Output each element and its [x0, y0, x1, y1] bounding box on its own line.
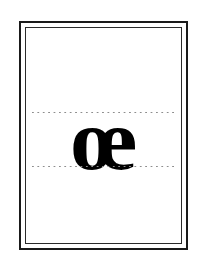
ruling-area: œ [26, 28, 181, 243]
card-canvas: œ [0, 0, 204, 265]
oe-ligature-glyph: œ [71, 108, 136, 172]
baseline-guide [32, 166, 175, 167]
card-outer-border: œ [19, 21, 188, 250]
card-inner-border: œ [25, 27, 182, 244]
glyph-slot: œ [26, 112, 181, 167]
